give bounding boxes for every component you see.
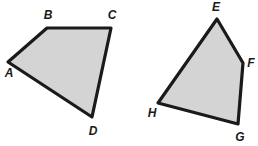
vertex-label-g: G: [235, 130, 244, 144]
vertex-label-d: D: [89, 124, 98, 138]
vertex-label-f: F: [247, 56, 255, 70]
vertex-label-b: B: [44, 8, 53, 22]
vertex-label-h: H: [148, 106, 157, 120]
vertex-label-e: E: [212, 0, 221, 14]
vertex-label-a: A: [4, 66, 14, 80]
vertex-label-c: C: [108, 8, 117, 22]
geometry-figure-canvas: A B C D E F G H: [0, 0, 258, 146]
